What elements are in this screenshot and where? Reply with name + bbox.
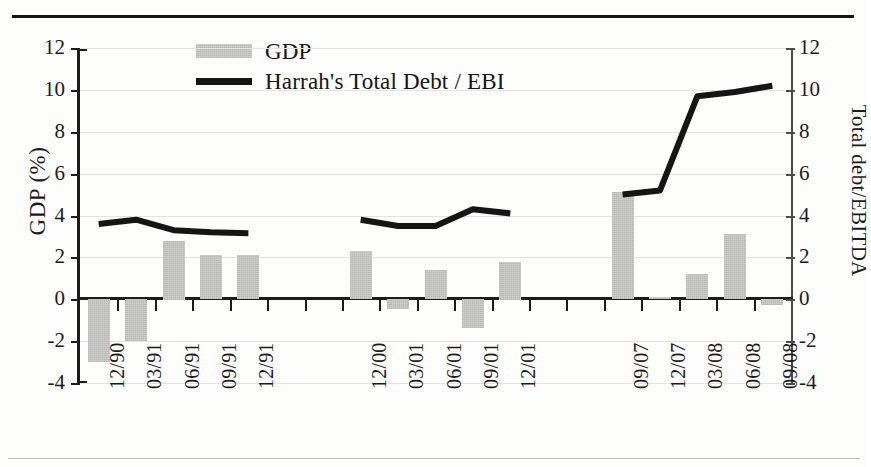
x-tick bbox=[454, 300, 456, 311]
bar-gdp bbox=[425, 270, 447, 299]
y-tick-left bbox=[71, 216, 80, 218]
chart-legend: GDP Harrah's Total Debt / EBI bbox=[196, 36, 526, 96]
gridline bbox=[80, 90, 791, 91]
y-tick-label-left: 6 bbox=[55, 163, 66, 184]
y-tick-label-left: -4 bbox=[48, 372, 66, 393]
x-tick bbox=[417, 300, 419, 311]
line-segment-debt-ebitda bbox=[623, 86, 773, 195]
line-segment-debt-ebitda bbox=[361, 209, 511, 226]
y-tick-left bbox=[71, 48, 80, 50]
x-tick bbox=[604, 300, 606, 311]
x-tick-label: 03/01 bbox=[406, 342, 426, 389]
x-tick-label: 12/91 bbox=[256, 342, 276, 389]
x-tick-label: 09/91 bbox=[219, 342, 239, 389]
bar-gdp bbox=[350, 251, 372, 299]
bar-gdp bbox=[612, 192, 634, 299]
bar-gdp bbox=[200, 255, 222, 299]
x-tick bbox=[679, 300, 681, 311]
x-tick bbox=[117, 300, 119, 311]
x-tick bbox=[492, 300, 494, 311]
x-tick-label: 03/08 bbox=[705, 342, 725, 389]
legend-label-gdp: GDP bbox=[265, 40, 312, 63]
bar-gdp bbox=[125, 299, 147, 341]
legend-item-debt: Harrah's Total Debt / EBI bbox=[196, 66, 526, 96]
x-tick-label: 06/08 bbox=[743, 342, 763, 389]
y-tick-left bbox=[71, 341, 80, 343]
legend-bar-swatch-icon bbox=[196, 44, 252, 58]
y-tick-label-right: -2 bbox=[799, 330, 817, 351]
y-axis-left-title: GDP (%) bbox=[25, 91, 51, 291]
x-tick-label: 12/07 bbox=[668, 342, 688, 389]
x-tick bbox=[641, 300, 643, 311]
gridline bbox=[80, 257, 791, 258]
x-tick-label: 09/01 bbox=[481, 342, 501, 389]
x-tick-label: 06/01 bbox=[444, 342, 464, 389]
y-tick-label-right: 8 bbox=[799, 121, 810, 142]
y-tick-label-left: 8 bbox=[55, 121, 66, 142]
y-tick-right bbox=[786, 90, 795, 92]
y-tick-label-right: -4 bbox=[799, 372, 817, 393]
x-tick-label: 09/07 bbox=[631, 342, 651, 389]
y-tick-left bbox=[71, 90, 80, 92]
x-tick bbox=[379, 300, 381, 311]
bottom-rule bbox=[8, 458, 860, 459]
bar-gdp bbox=[761, 299, 783, 305]
bar-gdp bbox=[387, 299, 409, 309]
x-tick bbox=[305, 300, 307, 311]
y-tick-right bbox=[786, 257, 795, 259]
x-tick bbox=[342, 300, 344, 311]
y-tick-label-left: 10 bbox=[44, 79, 65, 100]
y-tick-right bbox=[786, 299, 795, 301]
bar-gdp bbox=[649, 297, 671, 299]
x-tick bbox=[566, 300, 568, 311]
y-tick-left bbox=[71, 299, 80, 301]
y-tick-label-right: 10 bbox=[799, 79, 820, 100]
gridline bbox=[80, 174, 791, 175]
x-tick bbox=[716, 300, 718, 311]
y-axis-right-title: Total debt/EBITDA bbox=[846, 81, 871, 301]
x-tick bbox=[267, 300, 269, 311]
x-tick-label: 03/91 bbox=[144, 342, 164, 389]
bar-gdp bbox=[724, 234, 746, 299]
x-tick-label: 12/00 bbox=[369, 342, 389, 389]
y-tick-right bbox=[786, 132, 795, 134]
y-tick-label-right: 2 bbox=[799, 246, 810, 267]
bar-gdp bbox=[686, 274, 708, 299]
y-tick-label-left: 4 bbox=[55, 205, 66, 226]
legend-line-swatch-icon bbox=[196, 78, 252, 85]
x-tick bbox=[155, 300, 157, 311]
bar-gdp bbox=[163, 241, 185, 300]
y-tick-label-left: 12 bbox=[44, 37, 65, 58]
x-tick-label: 12/90 bbox=[107, 342, 127, 389]
y-tick-left bbox=[71, 257, 80, 259]
bar-gdp bbox=[462, 299, 484, 328]
y-tick-right bbox=[786, 48, 795, 50]
x-tick bbox=[192, 300, 194, 311]
y-tick-left bbox=[71, 174, 80, 176]
y-tick-right bbox=[786, 174, 795, 176]
line-segment-debt-ebitda bbox=[99, 220, 249, 234]
y-tick-label-left: -2 bbox=[48, 330, 66, 351]
gridline bbox=[80, 48, 791, 49]
x-tick bbox=[529, 300, 531, 311]
x-tick-label: 12/01 bbox=[518, 342, 538, 389]
y-tick-label-right: 4 bbox=[799, 205, 810, 226]
y-tick-label-right: 6 bbox=[799, 163, 810, 184]
y-tick-left bbox=[71, 383, 80, 385]
x-tick-label: 09/08 bbox=[780, 342, 800, 389]
bar-gdp bbox=[237, 255, 259, 299]
gridline bbox=[80, 216, 791, 217]
y-tick-label-left: 0 bbox=[55, 288, 66, 309]
top-rule bbox=[12, 15, 854, 18]
y-tick-left bbox=[71, 132, 80, 134]
y-tick-label-right: 0 bbox=[799, 288, 810, 309]
gridline bbox=[80, 132, 791, 133]
x-tick bbox=[754, 300, 756, 311]
y-tick-label-right: 12 bbox=[799, 37, 820, 58]
x-tick-label: 06/91 bbox=[182, 342, 202, 389]
x-tick bbox=[230, 300, 232, 311]
y-tick-right bbox=[786, 216, 795, 218]
bar-gdp bbox=[499, 262, 521, 300]
y-tick-label-left: 2 bbox=[55, 246, 66, 267]
